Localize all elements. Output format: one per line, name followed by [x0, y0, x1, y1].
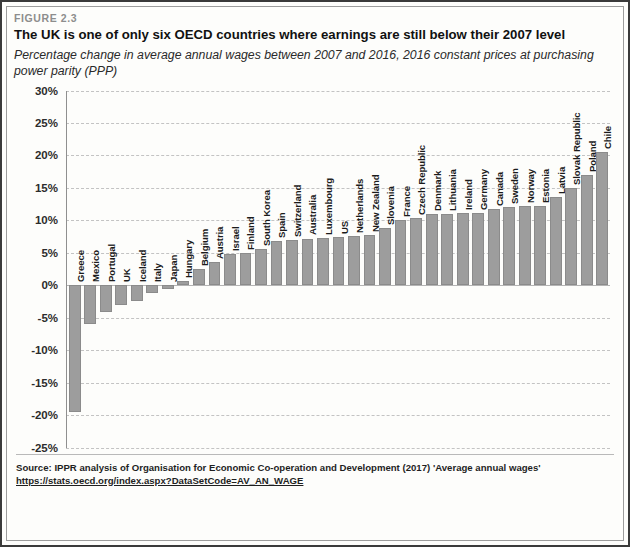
bar-column[interactable]: Ireland — [455, 91, 471, 448]
bar-column[interactable]: Italy — [145, 91, 161, 448]
bar-column[interactable]: Switzerland — [284, 91, 300, 448]
y-tick-label: -15% — [31, 377, 58, 389]
bar-column[interactable]: Israel — [222, 91, 238, 448]
bar-hungary[interactable] — [177, 281, 189, 285]
source-text: Source: IPPR analysis of Organisation fo… — [16, 462, 541, 473]
bar-portugal[interactable] — [100, 285, 112, 312]
bar-ireland[interactable] — [457, 213, 469, 285]
y-axis-tick-labels: 30%25%20%15%10%5%0%-5%-10%-15%-20%-25% — [14, 91, 62, 448]
figure-card: FIGURE 2.3 The UK is one of only six OEC… — [0, 0, 630, 547]
bar-column[interactable]: Hungary — [176, 91, 192, 448]
bar-belgium[interactable] — [193, 269, 205, 285]
bar-column[interactable]: Mexico — [83, 91, 99, 448]
y-tick-label: 15% — [35, 182, 58, 194]
y-tick-label: 30% — [35, 85, 58, 97]
bar-column[interactable]: Sweden — [501, 91, 517, 448]
bar-column[interactable]: Slovenia — [377, 91, 393, 448]
bar-new-zealand[interactable] — [364, 235, 376, 285]
bar-japan[interactable] — [162, 285, 174, 289]
bar-denmark[interactable] — [426, 214, 438, 285]
bar-column[interactable]: Poland — [579, 91, 595, 448]
bar-column[interactable]: Iceland — [129, 91, 145, 448]
bar-column[interactable]: UK — [114, 91, 130, 448]
figure-number-label: FIGURE 2.3 — [14, 12, 620, 24]
y-tick-label: 20% — [35, 149, 58, 161]
bar-column[interactable]: Slovak Republic — [564, 91, 580, 448]
bar-column[interactable]: South Korea — [253, 91, 269, 448]
bar-czech-republic[interactable] — [410, 218, 422, 285]
bar-australia[interactable] — [302, 239, 314, 286]
bar-finland[interactable] — [240, 253, 252, 285]
y-tick-label: -20% — [31, 409, 58, 421]
bar-austria[interactable] — [209, 262, 221, 285]
bar-column[interactable]: Greece — [67, 91, 83, 448]
bar-column[interactable]: Norway — [517, 91, 533, 448]
bar-series: GreeceMexicoPortugalUKIcelandItalyJapanH… — [67, 91, 610, 448]
gridline--25% — [66, 448, 610, 449]
bar-spain[interactable] — [271, 241, 283, 285]
bar-column[interactable]: Chile — [595, 91, 611, 448]
bar-chile[interactable] — [596, 152, 608, 286]
bar-column[interactable]: Lithuania — [439, 91, 455, 448]
bar-israel[interactable] — [224, 254, 236, 285]
bar-canada[interactable] — [488, 209, 500, 286]
y-tick-label: 5% — [41, 247, 58, 259]
bar-slovak-republic[interactable] — [565, 188, 577, 285]
bar-column[interactable]: Denmark — [424, 91, 440, 448]
bar-column[interactable]: Estonia — [532, 91, 548, 448]
bar-column[interactable]: Spain — [269, 91, 285, 448]
bar-column[interactable]: Latvia — [548, 91, 564, 448]
bar-column[interactable]: Japan — [160, 91, 176, 448]
bar-column[interactable]: France — [393, 91, 409, 448]
bar-estonia[interactable] — [534, 206, 546, 285]
category-label: Chile — [602, 126, 613, 149]
bar-italy[interactable] — [146, 285, 158, 293]
bar-luxembourg[interactable] — [317, 238, 329, 285]
figure-subtitle: Percentage change in average annual wage… — [14, 47, 612, 79]
bar-column[interactable]: Germany — [470, 91, 486, 448]
bar-chart: 30%25%20%15%10%5%0%-5%-10%-15%-20%-25% G… — [14, 83, 616, 448]
y-tick-label: -25% — [31, 442, 58, 454]
bar-netherlands[interactable] — [348, 236, 360, 285]
bar-column[interactable]: Belgium — [191, 91, 207, 448]
source-divider — [16, 454, 614, 455]
bar-column[interactable]: New Zealand — [362, 91, 378, 448]
bar-column[interactable]: Luxembourg — [315, 91, 331, 448]
bar-us[interactable] — [333, 237, 345, 285]
y-tick-label: 25% — [35, 117, 58, 129]
bar-germany[interactable] — [472, 213, 484, 286]
y-tick-label: 0% — [41, 279, 58, 291]
bar-latvia[interactable] — [550, 197, 562, 285]
y-tick-label: -10% — [31, 344, 58, 356]
bar-poland[interactable] — [581, 175, 593, 285]
y-tick-label: 10% — [35, 214, 58, 226]
bar-mexico[interactable] — [84, 285, 96, 324]
bar-norway[interactable] — [519, 206, 531, 285]
bar-uk[interactable] — [115, 285, 127, 304]
source-note: Source: IPPR analysis of Organisation fo… — [16, 461, 612, 487]
bar-column[interactable]: Austria — [207, 91, 223, 448]
y-tick-label: -5% — [38, 312, 58, 324]
bar-column[interactable]: Australia — [300, 91, 316, 448]
bar-column[interactable]: US — [331, 91, 347, 448]
bar-column[interactable]: Portugal — [98, 91, 114, 448]
bar-column[interactable]: Finland — [238, 91, 254, 448]
bar-column[interactable]: Czech Republic — [408, 91, 424, 448]
plot-area: GreeceMexicoPortugalUKIcelandItalyJapanH… — [66, 91, 610, 448]
bar-sweden[interactable] — [503, 207, 515, 285]
bar-switzerland[interactable] — [286, 240, 298, 285]
source-url-link[interactable]: https://stats.oecd.org/index.aspx?DataSe… — [16, 474, 612, 487]
bar-lithuania[interactable] — [441, 214, 453, 285]
bar-column[interactable]: Netherlands — [346, 91, 362, 448]
bar-column[interactable]: Canada — [486, 91, 502, 448]
bar-slovenia[interactable] — [379, 228, 391, 285]
bar-france[interactable] — [395, 220, 407, 286]
bar-iceland[interactable] — [131, 285, 143, 301]
bar-south-korea[interactable] — [255, 249, 267, 285]
bar-greece[interactable] — [69, 285, 81, 412]
figure-title: The UK is one of only six OECD countries… — [14, 27, 614, 44]
